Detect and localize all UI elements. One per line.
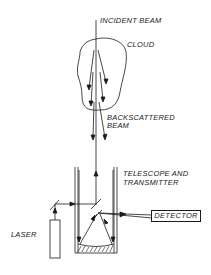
cloud-label: CLOUD xyxy=(127,41,154,49)
telescope-label-line2: TRANSMITTER xyxy=(123,179,179,187)
laser-box xyxy=(50,220,60,258)
incident-beam-label: INCIDENT BEAM xyxy=(100,17,161,25)
telescope-label-line1: TELESCOPE AND xyxy=(123,170,188,178)
backscattered-label-line2: BEAM xyxy=(107,122,129,130)
detector-box: DETECTOR xyxy=(151,210,201,222)
primary-mirror xyxy=(78,244,114,247)
laser-label: LASER xyxy=(11,231,37,239)
